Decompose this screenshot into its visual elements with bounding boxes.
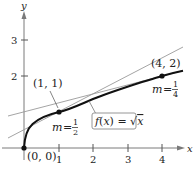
svg-text:m: m (52, 121, 62, 134)
function-label-eq: = (114, 115, 130, 128)
slope-quarter-denominator: 4 (173, 90, 178, 99)
y-tick-label-3: 3 (11, 35, 17, 46)
y-axis-label: y (20, 0, 27, 11)
x-tick-label-2: 2 (90, 154, 96, 165)
svg-text:=: = (63, 121, 72, 134)
slope-quarter-numerator: 1 (173, 80, 178, 89)
svg-text:=: = (163, 83, 172, 96)
point-label-1-1-leader (50, 91, 58, 108)
svg-text:f(x) = √x: f(x) = √x (94, 115, 144, 128)
point-1-1 (56, 109, 61, 114)
slope-label-quarter: m = 1 4 (152, 80, 178, 99)
x-tick-label-4: 4 (159, 154, 165, 165)
point-label-origin: (0, 0) (27, 150, 57, 163)
y-axis-arrow-icon (22, 11, 27, 19)
point-label-1-1: (1, 1) (33, 77, 63, 90)
x-axis-label: x (187, 143, 193, 154)
x-tick-label-1: 1 (56, 154, 62, 165)
point-label-4-2: (4, 2) (151, 57, 181, 70)
point-4-2 (159, 73, 164, 78)
x-axis-arrow-icon (177, 146, 185, 151)
function-label-radicand: x (137, 115, 144, 128)
x-tick-label-3: 3 (125, 154, 131, 165)
function-label-leader (89, 101, 96, 114)
sqrt-tangent-diagram: y 2 3 x 1 2 3 4 (0, 0) (1, 1) (4, 2) m =… (0, 0, 196, 176)
point-origin (21, 145, 26, 150)
slope-half-denominator: 2 (73, 128, 78, 137)
slope-label-half: m = 1 2 (52, 118, 78, 137)
slope-half-numerator: 1 (73, 118, 78, 127)
svg-text:m: m (152, 83, 162, 96)
function-label: f(x) = √x (89, 101, 144, 129)
y-tick-label-2: 2 (11, 71, 17, 82)
